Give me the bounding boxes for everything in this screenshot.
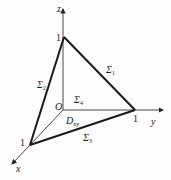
sigma-3-label: Σ3 bbox=[83, 133, 92, 143]
sigma-2-label: Σ2 bbox=[37, 80, 46, 90]
origin-label: O bbox=[55, 102, 62, 112]
diagram-lines bbox=[0, 0, 171, 180]
tetrahedron-diagram: z 1 y 1 x 1 O Σ1 Σ2 Σ3 Σ4 Dxy bbox=[0, 0, 171, 180]
z-axis-label: z bbox=[57, 4, 61, 14]
edge-z-x bbox=[30, 37, 64, 145]
sigma-4-label: Σ4 bbox=[74, 95, 83, 105]
y-axis-label: y bbox=[151, 117, 155, 127]
y-tick-label: 1 bbox=[133, 114, 138, 124]
sigma-1-label: Σ1 bbox=[106, 65, 115, 75]
region-dxy-label: Dxy bbox=[66, 116, 79, 126]
x-axis-label: x bbox=[16, 164, 20, 174]
x-tick-label: 1 bbox=[20, 138, 25, 148]
z-tick-label: 1 bbox=[56, 33, 61, 43]
